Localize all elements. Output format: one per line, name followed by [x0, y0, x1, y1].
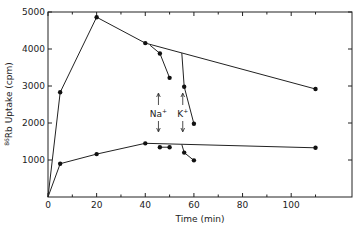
- series-line: [48, 17, 316, 197]
- data-point: [182, 150, 186, 154]
- annotations: Na+K+: [150, 93, 188, 132]
- y-tick-label: 4000: [22, 44, 45, 54]
- data-point: [58, 90, 62, 94]
- x-tick-label: 100: [283, 200, 300, 210]
- y-tick-label: 5000: [22, 7, 45, 17]
- data-point: [313, 87, 317, 91]
- data-point: [94, 152, 98, 156]
- data-point: [313, 146, 317, 150]
- data-point: [94, 15, 98, 19]
- data-point: [58, 162, 62, 166]
- series-line: [48, 143, 316, 197]
- x-tick-label: 0: [45, 200, 51, 210]
- y-tick-label: 1000: [22, 155, 45, 165]
- annotation-label: Na+: [150, 107, 167, 119]
- data-point: [192, 158, 196, 162]
- y-tick-label: 2000: [22, 118, 45, 128]
- y-axis-title-superscript: 86: [3, 138, 10, 146]
- x-tick-label: 40: [140, 200, 152, 210]
- plot-border: [48, 12, 352, 197]
- y-axis-title: 86Rb Uptake (cpm): [3, 62, 14, 146]
- data-point: [167, 76, 171, 80]
- data-point: [158, 51, 162, 55]
- data-series: [48, 15, 318, 197]
- x-axis-title: Time (min): [175, 214, 225, 224]
- y-axis-title-main: Rb Uptake (cpm): [4, 62, 14, 138]
- data-point: [158, 145, 162, 149]
- line-chart: 02040608010010002000300040005000 Na+K+ T…: [0, 0, 359, 228]
- data-point: [182, 85, 186, 89]
- data-point: [167, 145, 171, 149]
- x-tick-label: 60: [188, 200, 200, 210]
- plot-frame: [48, 12, 352, 197]
- data-point: [143, 141, 147, 145]
- data-point: [143, 41, 147, 45]
- series-line: [150, 45, 170, 78]
- x-tick-label: 80: [237, 200, 249, 210]
- data-point: [192, 122, 196, 126]
- annotation-label: K+: [177, 107, 188, 119]
- x-tick-label: 20: [91, 200, 103, 210]
- y-tick-label: 3000: [22, 81, 45, 91]
